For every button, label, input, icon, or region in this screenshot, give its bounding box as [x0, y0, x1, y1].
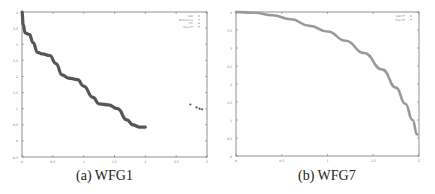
legend: IGD PFTrue PF — [394, 14, 412, 22]
y-tick-label: 1.5 — [13, 91, 18, 95]
data-point — [189, 103, 191, 105]
y-tick-label: 1.5 — [227, 101, 232, 105]
plot-wfg1: 43.532.521.510.50-0.500.511.522.53IGDRef… — [0, 0, 218, 170]
plot-wfg7: 43.532.521.510.5000.511.52IGD PFTrue PF — [218, 0, 435, 170]
y-tick-label: 1 — [230, 119, 232, 123]
data-point — [195, 106, 197, 108]
y-tick-label: 3.5 — [13, 27, 18, 31]
x-tick-label: 2 — [144, 160, 146, 164]
x-tick-label: 2.5 — [174, 160, 179, 164]
y-tick-label: 2 — [16, 75, 18, 79]
y-tick-label: 2.5 — [227, 65, 232, 69]
series-true-pf — [236, 12, 417, 134]
y-tick-label: 4 — [230, 11, 232, 15]
y-tick-label: 3 — [230, 47, 232, 51]
panel-wfg7: 43.532.521.510.5000.511.52IGD PFTrue PF … — [218, 0, 435, 194]
x-tick-label: 1 — [326, 159, 328, 163]
y-tick-label: 0 — [230, 155, 232, 159]
y-tick-label: 2 — [230, 83, 232, 87]
legend: IGDReferenceHVTrue PF — [179, 14, 200, 29]
x-tick-label: 0 — [235, 159, 237, 163]
panel-wfg1: 43.532.521.510.50-0.500.511.522.53IGDRef… — [0, 0, 218, 194]
y-tick-label: 3 — [16, 43, 18, 47]
data-point — [199, 108, 201, 110]
x-tick-label: 2 — [418, 159, 420, 163]
y-tick-label: 4 — [16, 11, 18, 15]
y-tick-label: 3.5 — [227, 29, 232, 33]
x-tick-label: 0.5 — [50, 160, 55, 164]
series-true-pf — [22, 12, 145, 127]
x-tick-label: 1 — [83, 160, 85, 164]
caption-wfg7: (b) WFG7 — [298, 168, 356, 184]
svg-text:True PF: True PF — [394, 18, 406, 22]
y-tick-label: 0 — [16, 139, 18, 143]
plot-frame — [22, 12, 207, 157]
svg-text:True PF: True PF — [182, 25, 194, 29]
x-tick-label: 0.5 — [279, 159, 284, 163]
x-tick-label: 1.5 — [371, 159, 376, 163]
y-tick-label: 0.5 — [227, 137, 232, 141]
x-tick-label: 0 — [21, 160, 23, 164]
data-point — [201, 108, 203, 110]
y-tick-label: 1 — [16, 107, 18, 111]
y-tick-label: -0.5 — [12, 156, 18, 160]
caption-wfg1: (a) WFG1 — [76, 168, 133, 184]
y-tick-label: 0.5 — [13, 123, 18, 127]
x-tick-label: 1.5 — [112, 160, 117, 164]
y-tick-label: 2.5 — [13, 59, 18, 63]
x-tick-label: 3 — [206, 160, 208, 164]
